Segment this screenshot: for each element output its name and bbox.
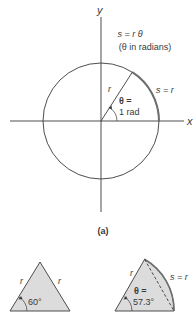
sector-arc-label: s = r <box>170 272 189 282</box>
angle-label-line1: θ = <box>119 96 132 106</box>
radian-diagram: y x s = r θ (θ in radians) r s = r θ = 1… <box>0 0 195 313</box>
formula-label: s = r θ <box>117 29 142 39</box>
sector-angle-label-line1: θ = <box>134 286 147 296</box>
sector-side-label: r <box>130 268 134 278</box>
sector-1-rad: r s = r θ = 57.3° <box>115 259 189 311</box>
angle-label-line2: 1 rad <box>119 107 140 117</box>
triangle-left-side-label: r <box>20 276 24 286</box>
panel-a: y x s = r θ (θ in radians) r s = r θ = 1… <box>10 4 193 236</box>
sector-angle-label-line2: 57.3° <box>133 297 155 307</box>
arc-label: s = r <box>156 85 175 95</box>
x-axis-label: x <box>186 115 193 127</box>
panel-caption: (a) <box>98 226 109 236</box>
triangle-right-side-label: r <box>58 276 62 286</box>
y-axis-label: y <box>96 4 104 16</box>
triangle-angle-label: 60° <box>28 297 42 307</box>
triangle-60: r r 60° <box>10 262 70 311</box>
radius-label: r <box>108 84 112 94</box>
formula-note-label: (θ in radians) <box>119 42 172 52</box>
angle-arc-icon <box>110 108 117 121</box>
